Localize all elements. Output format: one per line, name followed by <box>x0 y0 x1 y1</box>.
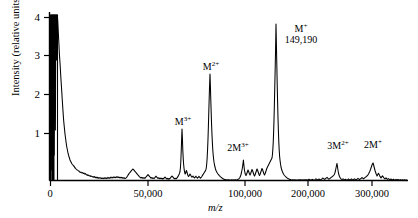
axes-group <box>44 12 408 186</box>
x-axis-title: m/z <box>208 202 223 213</box>
peak-label-m3plus-base: M <box>175 116 184 127</box>
y-tick-label-2: 2 <box>26 88 40 100</box>
y-tick-label-1: 1 <box>26 127 40 139</box>
peak-label-2m3plus-charge: 3+ <box>241 141 248 149</box>
peak-label-2m3plus: 2M3+ <box>218 140 258 153</box>
peak-label-3m2plus: 3M2+ <box>318 138 358 151</box>
x-tick-label-0: 0 <box>36 188 64 199</box>
peak-label-2mplus-charge: + <box>378 138 382 146</box>
mass-spectrum-chart: Intensity (relative units) 4 3 2 1 0 50,… <box>0 0 418 218</box>
peak-label-m3plus-charge: 3+ <box>184 115 191 123</box>
y-tick-label-3: 3 <box>26 49 40 61</box>
y-axis-title: Intensity (relative units) <box>10 0 21 126</box>
chart-canvas <box>0 0 418 218</box>
x-tick-label-200000: 200,000 <box>275 188 341 199</box>
peak-label-m2plus-charge: 2+ <box>212 60 219 68</box>
peak-label-m3plus: M3+ <box>166 114 200 127</box>
spectrum-trace <box>50 15 408 181</box>
peak-label-m2plus-base: M <box>203 61 212 72</box>
peak-label-mplus-ion: M+ <box>278 21 324 34</box>
peak-label-2mplus: 2M+ <box>356 137 390 150</box>
peak-label-3m2plus-base: 3M <box>327 140 341 151</box>
x-tick-label-100000: 100,000 <box>212 188 278 199</box>
peak-label-m2plus: M2+ <box>194 59 228 72</box>
peak-label-mplus-mass: 149,190 <box>278 34 324 45</box>
y-tick-label-4: 4 <box>26 11 40 23</box>
peak-label-2m3plus-base: 2M <box>227 142 241 153</box>
peak-label-2mplus-base: 2M <box>364 139 378 150</box>
x-tick-label-50000: 50,000 <box>118 188 178 199</box>
x-tick-label-300000: 300,000 <box>339 188 405 199</box>
peak-label-mplus: M+ 149,190 <box>278 21 324 45</box>
peak-label-3m2plus-charge: 2+ <box>341 139 348 147</box>
peak-label-mplus-charge: + <box>303 22 307 30</box>
